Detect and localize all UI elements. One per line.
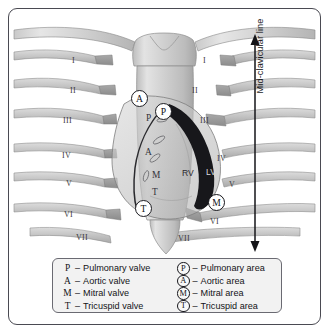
legend-area-key-circle: M — [177, 287, 190, 300]
legend-dash: – — [193, 263, 198, 273]
chamber-label-rv: RV — [182, 168, 194, 178]
legend-valve-key: M — [63, 288, 72, 298]
rib-label-right-v: V — [229, 180, 235, 189]
legend-dash: – — [193, 276, 198, 286]
rib-label-left-vi: VI — [64, 210, 73, 219]
legend-valve-key: T — [63, 301, 72, 311]
legend-area-text: Pulmonary area — [201, 263, 265, 273]
legend-valve-text: Tricuspid valve — [83, 301, 143, 311]
rib-label-left-v: V — [66, 179, 72, 188]
legend-dash: – — [75, 263, 80, 273]
legend-area-key-circle: T — [177, 300, 190, 313]
cardiac-auscultation-figure: Mid-clavicular line IIIIIIIVVVIVII IIIII… — [0, 0, 329, 333]
legend-valve-key: P — [63, 263, 72, 273]
valve-letter-p: P — [146, 113, 151, 123]
legend-valve-pulmonary: P–Pulmonary valve — [63, 263, 177, 273]
rib-label-left-iii: III — [63, 116, 72, 125]
mitral-area-marker: M — [208, 194, 225, 211]
valve-letter-t: T — [152, 187, 158, 197]
pulmonary-area-marker: P — [155, 103, 172, 120]
valve-letter-a: A — [145, 147, 152, 157]
rib-label-right-ii: II — [192, 86, 198, 95]
legend-valve-mitral: M–Mitral valve — [63, 288, 177, 298]
mid-clavicular-line-label: Mid-clavicular line — [255, 0, 265, 112]
legend-dash: – — [75, 288, 80, 298]
legend-grid: P–Pulmonary valveP–Pulmonary areaA–Aorti… — [53, 259, 281, 312]
rib-label-left-i: I — [72, 56, 75, 65]
legend-valve-text: Mitral valve — [83, 288, 129, 298]
rib-label-left-vii: VII — [76, 233, 88, 242]
legend-box: P–Pulmonary valveP–Pulmonary areaA–Aorti… — [52, 258, 282, 313]
legend-area-aortic: A–Aortic area — [177, 275, 293, 288]
legend-valve-aortic: A–Aortic valve — [63, 276, 177, 286]
legend-valve-text: Pulmonary valve — [83, 263, 150, 273]
tricuspid-area-marker: T — [135, 200, 152, 217]
legend-area-text: Tricuspid area — [201, 301, 258, 311]
aortic-area-marker: A — [131, 90, 148, 107]
legend-area-text: Aortic area — [201, 276, 245, 286]
rib-label-right-i: I — [203, 56, 206, 65]
legend-valve-tricuspid: T–Tricuspid valve — [63, 301, 177, 311]
valve-letter-m: M — [152, 170, 160, 180]
rib-label-left-ii: II — [70, 86, 76, 95]
legend-area-text: Mitral area — [201, 288, 244, 298]
legend-valve-text: Aortic valve — [83, 276, 130, 286]
legend-dash: – — [193, 288, 198, 298]
legend-dash: – — [75, 301, 80, 311]
rib-label-right-vi: VI — [210, 217, 219, 226]
rib-label-right-iv: IV — [217, 154, 226, 163]
rib-label-right-iii: III — [200, 116, 209, 125]
legend-area-key-circle: A — [177, 275, 190, 288]
legend-area-key-circle: P — [177, 262, 190, 275]
legend-dash: – — [193, 301, 198, 311]
legend-area-pulmonary: P–Pulmonary area — [177, 262, 293, 275]
rib-label-left-iv: IV — [62, 151, 71, 160]
legend-valve-key: A — [63, 276, 72, 286]
legend-area-tricuspid: T–Tricuspid area — [177, 300, 293, 313]
chamber-label-lv: LV — [206, 167, 216, 177]
legend-area-mitral: M–Mitral area — [177, 287, 293, 300]
legend-dash: – — [75, 276, 80, 286]
rib-label-right-vii: VII — [178, 234, 190, 243]
